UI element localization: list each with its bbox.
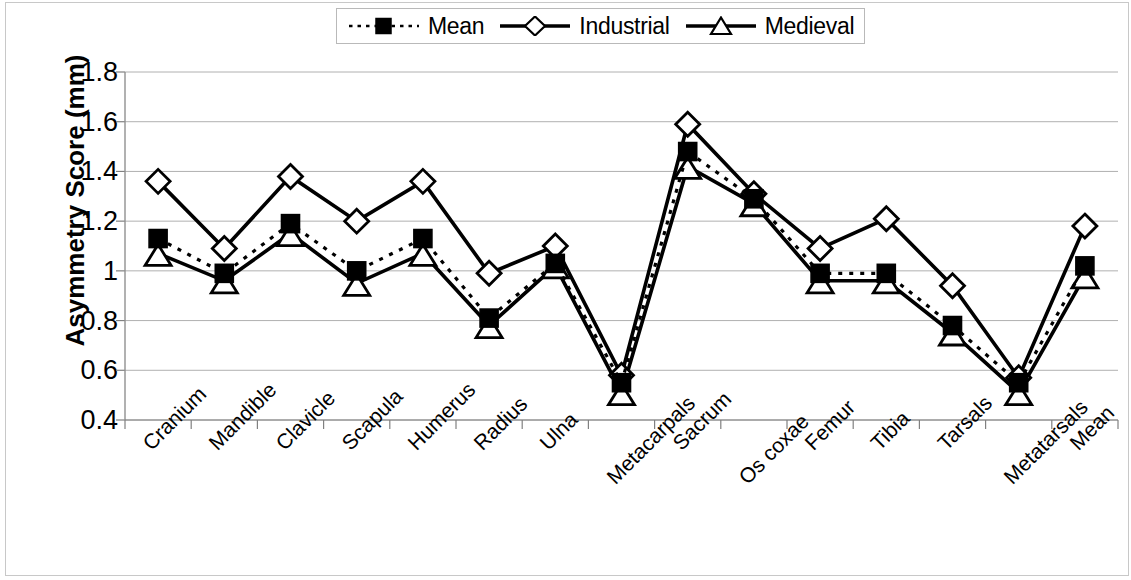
data-point-marker xyxy=(1010,374,1028,392)
plot-svg xyxy=(0,0,1131,580)
data-point-marker xyxy=(411,169,435,193)
series-industrial xyxy=(146,112,1097,390)
plot-area-wrapper xyxy=(0,0,1131,580)
data-point-marker xyxy=(679,143,697,161)
data-point-marker xyxy=(480,309,498,327)
data-point-marker xyxy=(345,209,369,233)
data-point-marker xyxy=(613,374,631,392)
series-line xyxy=(158,152,1085,383)
chart-container: Mean Industrial Medieval Asymmetry Score… xyxy=(0,0,1131,580)
data-point-marker xyxy=(546,254,564,272)
data-point-marker xyxy=(1076,257,1094,275)
data-point-marker xyxy=(348,262,366,280)
data-point-marker xyxy=(215,264,233,282)
data-point-marker xyxy=(1073,214,1097,238)
data-point-marker xyxy=(282,215,300,233)
data-point-marker xyxy=(149,230,167,248)
data-point-marker xyxy=(877,264,895,282)
data-point-marker xyxy=(745,190,763,208)
data-point-marker xyxy=(477,261,501,285)
data-point-marker xyxy=(811,264,829,282)
data-point-marker xyxy=(944,317,962,335)
data-point-marker xyxy=(414,230,432,248)
